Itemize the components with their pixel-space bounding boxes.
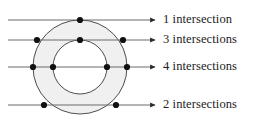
intersection-dot	[50, 64, 56, 70]
intersection-dot	[113, 102, 119, 108]
intersection-dot	[77, 37, 83, 43]
intersection-dot	[30, 64, 36, 70]
annulus-diagram	[0, 0, 255, 135]
intersection-dot	[77, 17, 83, 23]
intersection-dot	[124, 64, 130, 70]
intersection-dot	[34, 37, 40, 43]
intersection-dot	[104, 64, 110, 70]
intersection-dot	[120, 37, 126, 43]
annulus-intersection-figure: 1 intersection 3 intersections 4 interse…	[0, 0, 255, 135]
intersection-dot	[41, 102, 47, 108]
